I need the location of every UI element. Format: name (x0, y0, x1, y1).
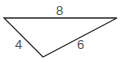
triangle-diagram: 8 4 6 (0, 0, 127, 63)
side-label-top: 8 (56, 3, 63, 18)
side-label-left: 4 (15, 37, 22, 52)
side-label-right: 6 (77, 37, 84, 52)
